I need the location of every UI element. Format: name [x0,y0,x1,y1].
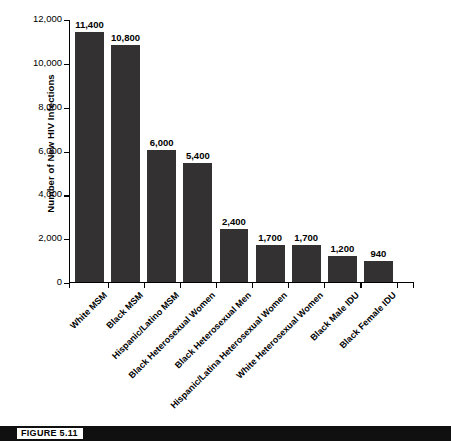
bar-value-label: 940 [371,248,387,259]
bar-value-label: 10,800 [111,32,140,43]
y-tick-label: 4,000 [38,188,62,199]
x-tick-mark [288,283,289,288]
y-tick-label: 8,000 [38,101,62,112]
y-tick-mark [64,108,69,109]
x-tick-mark [108,283,109,288]
y-tick-label: 2,000 [38,232,62,243]
y-tick-label: 10,000 [33,57,62,68]
y-tick-label: 12,000 [33,13,62,24]
bar-chart: Number of New HIV Infections 02,0004,000… [0,0,451,410]
x-tick-mark [216,283,217,288]
y-tick-label: 0 [57,276,62,287]
y-tick-mark [64,195,69,196]
x-tick-mark [324,283,325,288]
bar-value-label: 1,700 [258,232,282,243]
x-tick-mark [397,283,398,288]
x-tick-mark [180,283,181,288]
x-tick-mark [360,283,361,288]
bar-value-label: 2,400 [222,216,246,227]
bar: 2,400 [220,229,249,282]
x-axis-category-label: White MSM [68,290,109,331]
figure-caption-bar: FIGURE 5.11 [0,426,451,441]
figure-container: Number of New HIV Infections 02,0004,000… [0,0,451,444]
x-tick-mark-origin [69,283,70,288]
bar-value-label: 1,700 [294,232,318,243]
bar: 5,400 [183,163,212,281]
bar: 1,700 [292,245,321,282]
y-tick-mark [64,239,69,240]
x-tick-mark [144,283,145,288]
y-tick-mark [64,152,69,153]
x-axis-category-label: Hispanic/Latino MSM [110,290,181,361]
x-axis-line [69,282,414,283]
figure-number-tag: FIGURE 5.11 [17,428,83,439]
y-tick-mark [64,64,69,65]
bar: 11,400 [75,32,104,282]
x-tick-mark-end [413,283,414,288]
x-tick-mark [252,283,253,288]
bar: 10,800 [111,45,140,282]
bar-value-label: 1,200 [330,243,354,254]
y-tick-label: 6,000 [38,145,62,156]
y-axis-line [69,20,70,283]
bar-value-label: 6,000 [150,137,174,148]
plot-area: 02,0004,0006,0008,00010,00012,000 11,400… [69,20,414,283]
bar: 1,700 [256,245,285,282]
bar: 1,200 [328,256,357,282]
bar: 940 [364,261,393,282]
bar: 6,000 [147,150,176,282]
bar-value-label: 11,400 [75,19,104,30]
y-tick-mark [64,20,69,21]
bar-value-label: 5,400 [186,150,210,161]
